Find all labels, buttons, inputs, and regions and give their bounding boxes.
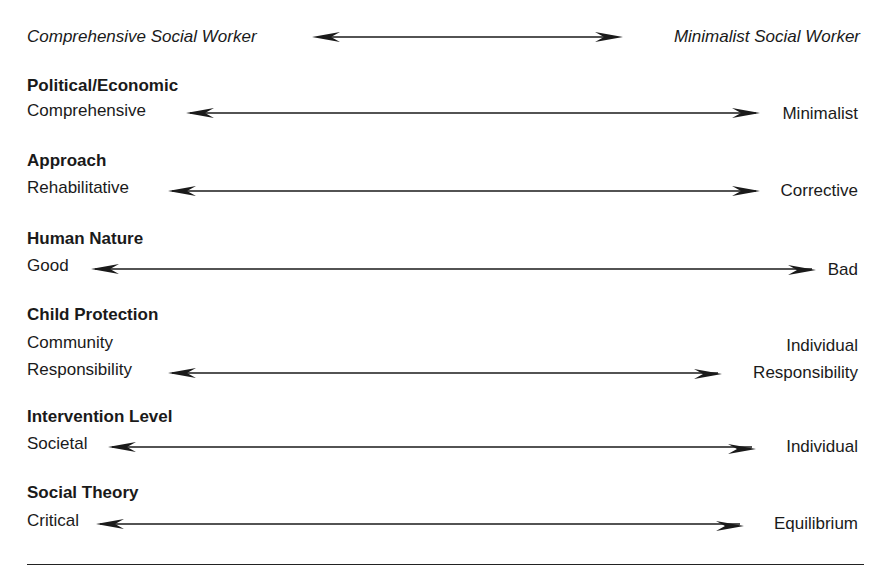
arrowhead-left-icon xyxy=(108,442,136,452)
double-arrow-social-theory xyxy=(96,519,744,531)
dimension-right-label-social-theory: Equilibrium xyxy=(774,514,858,534)
arrowhead-right-icon xyxy=(694,369,722,379)
dimension-right-label-political-economic: Minimalist xyxy=(782,104,858,124)
arrowhead-right-icon xyxy=(732,186,760,196)
arrowhead-left-icon xyxy=(91,264,119,274)
arrowhead-left-icon xyxy=(168,368,196,378)
double-arrow-child-protection xyxy=(168,368,722,379)
double-arrow-human-nature xyxy=(91,264,816,275)
dimension-right-label-approach: Corrective xyxy=(781,181,858,201)
dimension-right-label-child-protection-line2: Responsibility xyxy=(753,363,858,383)
arrowhead-left-icon xyxy=(96,519,124,529)
dimension-left-label-intervention-level: Societal xyxy=(27,434,87,454)
dimension-left-label-child-protection-line1: Community xyxy=(27,333,113,353)
arrowhead-left-icon xyxy=(168,186,196,196)
dimension-heading-human-nature: Human Nature xyxy=(27,229,143,249)
arrowhead-left-icon xyxy=(186,108,214,118)
dimension-heading-social-theory: Social Theory xyxy=(27,483,138,503)
double-arrow-political-economic xyxy=(186,108,760,118)
double-arrow-header xyxy=(312,32,623,42)
dimension-left-label-approach: Rehabilitative xyxy=(27,178,129,198)
header-left-label: Comprehensive Social Worker xyxy=(27,27,257,47)
double-arrow-approach xyxy=(168,186,760,196)
header-right-label: Minimalist Social Worker xyxy=(674,27,860,47)
dimension-left-label-child-protection-line2: Responsibility xyxy=(27,360,132,380)
arrowhead-right-icon xyxy=(595,32,623,42)
arrowhead-left-icon xyxy=(312,32,340,42)
double-arrow-intervention-level xyxy=(108,442,756,454)
dimension-heading-approach: Approach xyxy=(27,151,106,171)
dimension-heading-child-protection: Child Protection xyxy=(27,305,158,325)
dimension-right-label-child-protection-line1: Individual xyxy=(786,336,858,356)
dimension-left-label-social-theory: Critical xyxy=(27,511,79,531)
dimension-left-label-political-economic: Comprehensive xyxy=(27,101,146,121)
dimension-heading-political-economic: Political/Economic xyxy=(27,76,178,96)
arrowhead-right-icon xyxy=(716,521,744,531)
bottom-divider xyxy=(27,564,864,565)
dimension-right-label-human-nature: Bad xyxy=(828,260,858,280)
arrowhead-right-icon xyxy=(788,265,816,275)
dimension-left-label-human-nature: Good xyxy=(27,256,69,276)
dimension-heading-intervention-level: Intervention Level xyxy=(27,407,172,427)
arrowhead-right-icon xyxy=(732,108,760,118)
dimension-right-label-intervention-level: Individual xyxy=(786,437,858,457)
arrowhead-right-icon xyxy=(728,444,756,454)
